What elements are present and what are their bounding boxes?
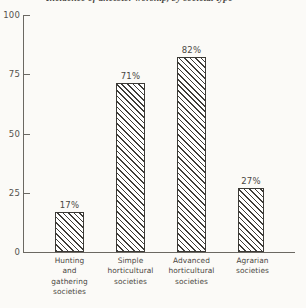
category-3-line-1: societies — [221, 266, 284, 276]
bar-agrarian-societies[interactable] — [238, 188, 264, 252]
bar-group-1: 71% — [116, 15, 145, 252]
y-axis-label-25-wrap: 25 — [0, 188, 20, 198]
bar-value-2: 82% — [177, 45, 206, 55]
y-axis-tick-75 — [24, 74, 30, 75]
y-axis-label-25: 25 — [0, 188, 20, 198]
y-axis-label-50-wrap: 50 — [0, 129, 20, 139]
bar-simple-horticultural-societies[interactable] — [116, 83, 145, 252]
y-axis-tick-50 — [24, 134, 30, 135]
category-2-line-1: horticultural — [155, 266, 228, 276]
y-axis-label-0: 0 — [0, 247, 20, 257]
bar-value-3: 27% — [238, 176, 264, 186]
y-axis-label-100: 100 — [0, 10, 20, 20]
y-axis-label-75-wrap: 75 — [0, 69, 20, 79]
x-axis-category-label-3: Agrarian societies — [221, 256, 284, 277]
y-axis-label-0-wrap: 0 — [0, 247, 20, 257]
category-2-line-2: societies — [155, 277, 228, 287]
y-axis-label-50: 50 — [0, 129, 20, 139]
bar-value-1: 71% — [116, 71, 145, 81]
y-axis-tick-100 — [24, 15, 30, 16]
chart-page: Incidence of ancestor worship, by societ… — [0, 0, 306, 308]
category-3-line-0: Agrarian — [221, 256, 284, 266]
category-0-line-3: societies — [34, 287, 105, 297]
y-axis-label-100-wrap: 100 — [0, 10, 20, 20]
bar-group-2: 82% — [177, 15, 206, 252]
bar-value-0: 17% — [55, 200, 84, 210]
category-2-line-0: Advanced — [155, 256, 228, 266]
y-axis-tick-25 — [24, 193, 30, 194]
x-axis-line — [23, 252, 295, 253]
bar-group-3: 27% — [238, 15, 264, 252]
bar-advanced-horticultural-societies[interactable] — [177, 57, 206, 252]
bar-group-0: 17% — [55, 15, 84, 252]
y-axis-label-75: 75 — [0, 69, 20, 79]
chart-title: Incidence of ancestor worship, by societ… — [46, 0, 304, 3]
x-axis-category-label-2: Advanced horticultural societies — [155, 256, 228, 287]
bar-hunting-and-gathering-societies[interactable] — [55, 212, 84, 252]
